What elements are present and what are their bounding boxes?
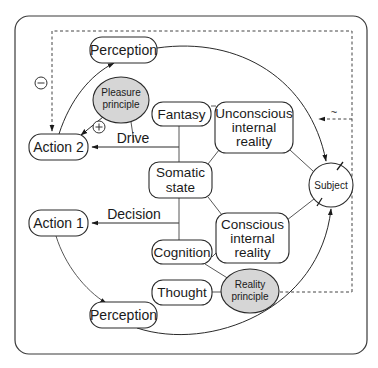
node-pleasure-principle: Pleasure principle [93, 77, 149, 123]
pleasure-label-2: principle [102, 99, 140, 110]
unconscious-label-2: internal [232, 120, 276, 135]
fantasy-label: Fantasy [157, 107, 205, 122]
minus-sign-icon [35, 77, 47, 89]
node-conscious-internal-reality: Conscious internal reality [216, 213, 289, 263]
perception-bottom-label: Perception [90, 307, 157, 323]
node-action2: Action 2 [29, 134, 88, 160]
subject-label: Subject [314, 180, 348, 191]
node-fantasy: Fantasy [152, 102, 211, 126]
node-unconscious-internal-reality: Unconscious internal reality [215, 102, 293, 153]
node-cognition: Cognition [152, 240, 212, 264]
psychological-model-diagram: Perception Pleasure principle Fantasy Un… [0, 0, 378, 368]
node-reality-principle: Reality principle [221, 269, 279, 313]
node-perception-top: Perception [90, 37, 157, 63]
somatic-label-2: state [166, 180, 195, 195]
node-perception-bottom: Perception [90, 302, 157, 328]
tilde-label: ~ [331, 106, 337, 118]
unconscious-label-1: Unconscious [215, 106, 293, 121]
cognition-label: Cognition [153, 245, 210, 260]
pleasure-label-1: Pleasure [101, 87, 141, 98]
thought-label: Thought [157, 285, 207, 300]
action1-label: Action 1 [33, 215, 84, 231]
node-subject: Subject [309, 162, 353, 207]
drive-label: Drive [117, 130, 150, 146]
unconscious-label-3: reality [236, 134, 272, 149]
decision-label: Decision [107, 206, 161, 222]
node-thought: Thought [152, 280, 212, 305]
conscious-label-1: Conscious [221, 217, 284, 232]
action2-label: Action 2 [33, 139, 84, 155]
perception-top-label: Perception [90, 42, 157, 58]
reality-label-1: Reality [235, 279, 266, 290]
conscious-label-3: reality [234, 245, 270, 260]
node-somatic-state: Somatic state [149, 162, 212, 198]
somatic-label-1: Somatic [156, 165, 205, 180]
plus-sign-icon [93, 121, 105, 133]
node-action1: Action 1 [29, 210, 88, 236]
reality-label-2: principle [231, 291, 269, 302]
conscious-label-2: internal [230, 231, 274, 246]
